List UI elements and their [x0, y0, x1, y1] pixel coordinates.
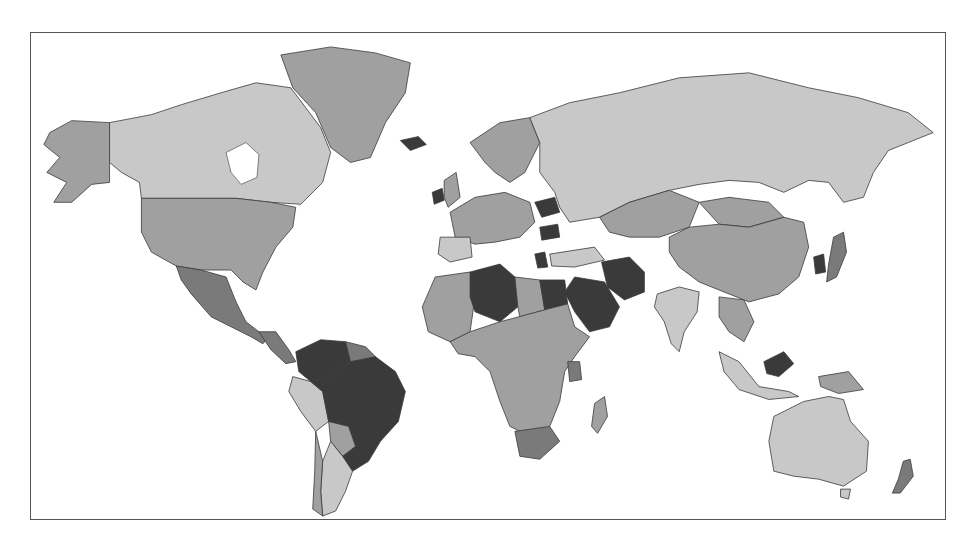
region-western-europe	[450, 192, 535, 244]
region-central-america	[259, 332, 296, 364]
map-frame	[30, 32, 946, 520]
world-map	[31, 33, 945, 519]
region-tasmania	[841, 489, 851, 499]
region-romania	[540, 224, 560, 240]
region-turkey	[550, 247, 605, 267]
region-iceland	[400, 137, 426, 151]
region-madagascar	[592, 397, 608, 434]
region-southeast-asia	[719, 297, 754, 342]
region-uk	[444, 172, 460, 207]
region-chile	[313, 431, 323, 516]
region-greece	[535, 252, 548, 268]
region-new-zealand	[892, 459, 913, 493]
region-china	[669, 217, 808, 302]
region-borneo	[764, 352, 794, 377]
region-iberia	[438, 237, 472, 262]
region-belarus	[535, 197, 560, 217]
region-scandinavia	[470, 118, 540, 183]
region-india	[654, 287, 699, 352]
region-alaska	[44, 121, 110, 203]
region-south-africa	[515, 426, 560, 459]
region-canada	[110, 83, 331, 204]
region-algeria	[470, 264, 518, 322]
region-papua	[819, 372, 864, 394]
region-morocco-westafrica	[422, 272, 475, 342]
region-japan	[827, 232, 847, 282]
region-ireland	[432, 188, 444, 204]
region-korea	[814, 254, 826, 274]
region-kenya	[568, 362, 582, 382]
region-australia	[769, 397, 869, 487]
